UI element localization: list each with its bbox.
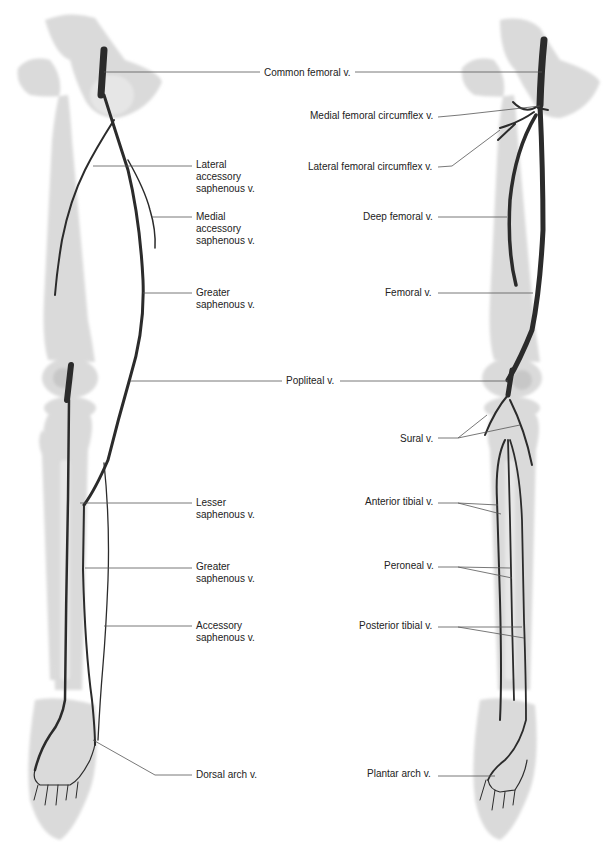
label-lesser-saphenous: Lesser saphenous v.	[196, 497, 255, 521]
label-deep-femoral: Deep femoral v.	[363, 211, 433, 223]
label-anterior-tibial: Anterior tibial v.	[365, 496, 433, 508]
label-dorsal-arch: Dorsal arch v.	[196, 769, 257, 781]
common-femoral-vein-right	[540, 40, 544, 105]
label-medial-femoral-circumflex: Medial femoral circumflex v.	[310, 110, 433, 122]
anatomy-illustration	[0, 0, 614, 864]
label-popliteal: Popliteal v.	[286, 375, 334, 387]
leader-lines	[80, 72, 542, 776]
label-greater-saphenous-leg: Greater saphenous v.	[196, 561, 255, 585]
label-sural: Sural v.	[400, 433, 433, 445]
lower-limb-veins-diagram: Common femoral v. Lateral accessory saph…	[0, 0, 614, 864]
label-greater-saphenous-thigh: Greater saphenous v.	[196, 287, 255, 311]
common-femoral-vein	[101, 50, 104, 95]
label-lateral-femoral-circumflex: Lateral femoral circumflex v.	[308, 161, 432, 173]
label-plantar-arch: Plantar arch v.	[367, 768, 431, 780]
label-femoral: Femoral v.	[385, 287, 432, 299]
medial-accessory-saphenous-vein	[128, 160, 155, 248]
left-skeleton	[18, 14, 163, 840]
label-accessory-saphenous: Accessory saphenous v.	[196, 620, 255, 644]
label-medial-accessory-saphenous: Medial accessory saphenous v.	[196, 211, 255, 247]
popliteal-vein-left	[67, 365, 71, 400]
label-posterior-tibial: Posterior tibial v.	[359, 620, 432, 632]
label-common-femoral: Common femoral v.	[264, 67, 351, 79]
accessory-saphenous-vein	[98, 463, 109, 740]
label-lateral-accessory-saphenous: Lateral accessory saphenous v.	[196, 159, 255, 195]
right-skeleton	[462, 19, 600, 840]
label-peroneal: Peroneal v.	[384, 560, 434, 572]
